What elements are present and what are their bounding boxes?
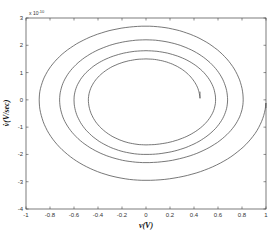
y-tick-label: -1	[18, 124, 24, 130]
x-tick-label: 0.4	[190, 212, 199, 218]
x-tick-label: -1	[23, 212, 29, 218]
y-tick-label: 1	[20, 70, 24, 76]
spiral-curve	[39, 26, 266, 180]
ticks: -1-0.8-0.6-0.4-0.200.20.40.60.813210-1-2…	[18, 15, 269, 218]
y-tick-label: 2	[20, 42, 24, 48]
y-tick-label: -4	[18, 206, 24, 212]
y-tick-label: 0	[20, 97, 24, 103]
y-tick-label: -3	[18, 179, 24, 185]
x-axis-label: v(V)	[139, 221, 154, 230]
y-tick-label: 3	[20, 15, 24, 21]
x-tick-label: 1	[264, 212, 268, 218]
x-tick-label: -0.2	[117, 212, 128, 218]
y-multiplier-label: x 10-10	[29, 9, 45, 16]
x-tick-label: 0.6	[214, 212, 223, 218]
y-axis-label: v̇(V/sec)	[2, 99, 11, 126]
x-tick-label: 0	[144, 212, 148, 218]
x-tick-label: -0.8	[45, 212, 56, 218]
x-tick-label: 0.8	[238, 212, 247, 218]
phase-plot: -1-0.8-0.6-0.4-0.200.20.40.60.813210-1-2…	[0, 0, 278, 233]
x-tick-label: 0.2	[166, 212, 175, 218]
y-tick-label: -2	[18, 151, 24, 157]
x-tick-label: -0.6	[69, 212, 80, 218]
x-tick-label: -0.4	[93, 212, 104, 218]
